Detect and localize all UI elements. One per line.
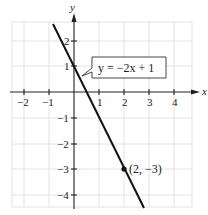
- equation-label: y = −2x + 1: [98, 61, 154, 75]
- x-tick-label: −2: [17, 96, 29, 108]
- y-tick-label: −1: [57, 112, 69, 124]
- x-tick-label: 2: [122, 96, 128, 108]
- x-axis-arrow-icon: [191, 90, 200, 95]
- point-label: (2, −3): [129, 162, 162, 176]
- x-axis: [10, 89, 196, 95]
- y-axis-label: y: [69, 1, 75, 13]
- y-axis-arrow-icon: [72, 13, 77, 22]
- y-tick-label: −2: [57, 138, 69, 150]
- x-tick-label: 4: [172, 96, 178, 108]
- y-tick-label: 1: [64, 60, 70, 72]
- x-tick-label: 3: [147, 96, 153, 108]
- equation-callout: y = −2x + 1: [82, 57, 166, 78]
- y-tick-label: −3: [57, 163, 69, 175]
- y-axis: [71, 18, 77, 209]
- x-axis-label: x: [201, 85, 207, 97]
- grid: [12, 22, 192, 207]
- y-tick-label: 2: [64, 35, 70, 47]
- x-tick-label: −1: [42, 96, 54, 108]
- point-marker: [121, 166, 126, 171]
- y-tick-label: −4: [57, 189, 69, 201]
- graph: x y −2 −1 1 2 3 4 2 1 −1 −2 −3 −4 (2, −3…: [0, 0, 208, 215]
- x-tick-label: 1: [97, 96, 103, 108]
